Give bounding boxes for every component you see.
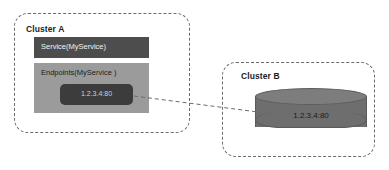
endpoints-box: Endpoints(MyService ) 1.2.3.4:80	[34, 63, 149, 113]
backend-address-label: 1.2.3.4:80	[255, 111, 367, 120]
endpoints-label: Endpoints(MyService )	[41, 68, 116, 77]
service-box: Service(MyService)	[34, 37, 149, 58]
backend-cylinder: 1.2.3.4:80	[255, 88, 367, 135]
cylinder-top-ellipse	[255, 88, 367, 105]
endpoint-address-chip: 1.2.3.4:80	[60, 84, 133, 105]
service-label: Service(MyService)	[41, 42, 106, 51]
diagram-canvas: Cluster A Service(MyService) Endpoints(M…	[0, 0, 389, 170]
cluster-a-label: Cluster A	[26, 24, 64, 34]
endpoint-address-label: 1.2.3.4:80	[60, 90, 133, 97]
cluster-b-label: Cluster B	[241, 71, 280, 81]
